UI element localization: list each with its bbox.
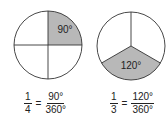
- fraction-one-third: 1 3: [110, 92, 118, 115]
- numerator: 120°: [131, 92, 154, 104]
- numerator: 1: [110, 92, 118, 104]
- angle-label-90: 90°: [57, 24, 72, 35]
- fraction-90-over-360: 90° 360°: [45, 92, 66, 115]
- fraction-120-over-360: 120° 360°: [131, 92, 154, 115]
- equation-quarter: 1 4 = 90° 360°: [24, 92, 66, 115]
- circle-thirds: 120°: [97, 12, 165, 80]
- numerator: 1: [24, 92, 32, 104]
- numerator: 90°: [47, 92, 64, 104]
- denominator: 4: [25, 104, 31, 115]
- equals-sign: =: [36, 99, 42, 109]
- equation-third: 1 3 = 120° 360°: [110, 92, 154, 115]
- denominator: 360°: [45, 104, 66, 115]
- denominator: 360°: [132, 104, 153, 115]
- equals-sign: =: [122, 99, 128, 109]
- circle-quarters: 90°: [14, 11, 82, 79]
- fraction-one-quarter: 1 4: [24, 92, 32, 115]
- denominator: 3: [111, 104, 117, 115]
- angle-label-120: 120°: [121, 60, 142, 71]
